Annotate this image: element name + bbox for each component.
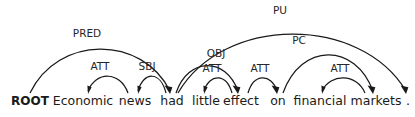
arc-label-pu-8: PU <box>273 4 287 16</box>
token-layer: ROOTEconomicnewshadlittleeffectonfinanci… <box>11 93 410 108</box>
arc-label-att-5: ATT <box>250 62 270 74</box>
arc-label-att-4: ATT <box>202 62 222 74</box>
arc-label-obj-3: OBJ <box>207 47 226 59</box>
arc-label-pred-0: PRED <box>73 27 101 39</box>
dependency-arc-canvas: PREDATTSBJOBJATTATTPCATTPU ROOTEconomicn… <box>0 0 415 117</box>
arc-label-sbj-2: SBJ <box>139 60 156 72</box>
arc-label-layer: PREDATTSBJOBJATTATTPCATTPU <box>73 4 350 74</box>
token-financial: financial <box>294 93 347 108</box>
token-news: news <box>119 93 151 108</box>
token-root: ROOT <box>11 94 50 108</box>
token-economic: Economic <box>53 93 114 108</box>
token-period: . <box>406 93 410 108</box>
dependency-arc-att-5 <box>248 78 277 93</box>
dependency-arc-att-1 <box>88 76 128 93</box>
token-had: had <box>160 93 184 108</box>
token-little: little <box>192 93 220 108</box>
token-on: on <box>270 93 286 108</box>
arc-label-pc-6: PC <box>292 34 306 46</box>
token-markets: markets <box>351 93 402 108</box>
dependency-arc-att-7 <box>322 78 365 93</box>
token-effect: effect <box>223 93 259 108</box>
dependency-arc-pc-6 <box>283 55 373 93</box>
arc-label-att-7: ATT <box>330 62 350 74</box>
arc-label-att-1: ATT <box>90 60 110 72</box>
dependency-parse-figure: PREDATTSBJOBJATTATTPCATTPU ROOTEconomicn… <box>0 0 415 117</box>
dependency-arc-att-4 <box>204 78 232 93</box>
